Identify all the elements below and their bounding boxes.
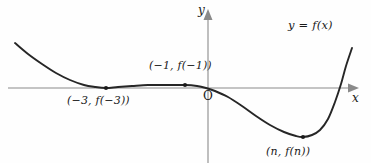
function-graph-figure: y x O y = f(x) (−3, f(−3)) (−1, f(−1)) (… (0, 0, 371, 163)
origin-label: O (203, 90, 213, 102)
point-label-local-max: (−1, f(−1)) (149, 60, 212, 71)
y-axis-label: y (198, 4, 205, 16)
point-marker-local-min-right (301, 135, 305, 139)
function-equation-label: y = f(x) (288, 20, 333, 32)
point-marker-local-max (183, 83, 187, 87)
point-label-local-min-left: (−3, f(−3)) (67, 95, 130, 106)
point-marker-local-min-left (104, 86, 108, 90)
x-axis-label: x (352, 92, 359, 104)
point-label-local-min-right: (n, f(n)) (266, 146, 310, 157)
function-curve (15, 43, 352, 137)
